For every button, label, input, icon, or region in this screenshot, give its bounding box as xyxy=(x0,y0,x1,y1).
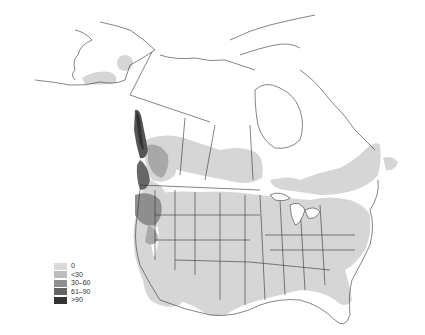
dark-coastal-areas xyxy=(134,110,150,190)
legend-swatch xyxy=(54,280,67,287)
legend-label: >90 xyxy=(71,296,83,304)
legend-item-gt90: >90 xyxy=(54,296,90,305)
legend-swatch xyxy=(54,263,67,270)
legend-item-lt30: <30 xyxy=(54,271,90,280)
legend-item-30-60: 30–60 xyxy=(54,279,90,288)
shaded-range-areas xyxy=(82,55,398,316)
legend-item-61-90: 61–90 xyxy=(54,288,90,297)
map-legend: 0 <30 30–60 61–90 >90 xyxy=(54,262,90,305)
legend-item-0: 0 xyxy=(54,262,90,271)
legend-swatch xyxy=(54,297,67,304)
legend-swatch xyxy=(54,271,67,278)
legend-label: 30–60 xyxy=(71,279,90,287)
legend-label: <30 xyxy=(71,271,83,279)
legend-label: 0 xyxy=(71,262,75,270)
legend-label: 61–90 xyxy=(71,288,90,296)
legend-swatch xyxy=(54,288,67,295)
